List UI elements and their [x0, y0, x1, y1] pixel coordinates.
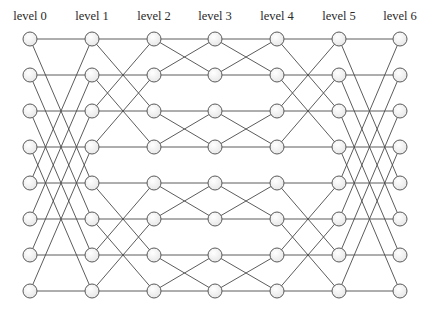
- node-l3-r3: [208, 140, 222, 154]
- node-l5-r5: [332, 212, 346, 226]
- node-l6-r1: [393, 68, 407, 82]
- node-l1-r7: [85, 284, 99, 298]
- node-l5-r7: [332, 284, 346, 298]
- node-l6-r0: [393, 32, 407, 46]
- node-l3-r1: [208, 68, 222, 82]
- node-l0-r7: [23, 284, 37, 298]
- node-l3-r4: [208, 176, 222, 190]
- benes-network-diagram: level 0 level 1 level 2 level 3 level 4 …: [0, 0, 430, 315]
- node-l3-r7: [208, 284, 222, 298]
- node-l4-r5: [270, 212, 284, 226]
- node-l5-r0: [332, 32, 346, 46]
- network-graph: [0, 0, 430, 315]
- node-l4-r1: [270, 68, 284, 82]
- node-l1-r1: [85, 68, 99, 82]
- node-l4-r4: [270, 176, 284, 190]
- node-l2-r7: [147, 284, 161, 298]
- node-l3-r0: [208, 32, 222, 46]
- node-l6-r6: [393, 248, 407, 262]
- node-l0-r2: [23, 104, 37, 118]
- node-l5-r1: [332, 68, 346, 82]
- node-l4-r2: [270, 104, 284, 118]
- nodes-layer: [23, 32, 407, 298]
- node-l4-r3: [270, 140, 284, 154]
- node-l4-r6: [270, 248, 284, 262]
- node-l2-r2: [147, 104, 161, 118]
- node-l1-r5: [85, 212, 99, 226]
- node-l4-r0: [270, 32, 284, 46]
- node-l1-r0: [85, 32, 99, 46]
- node-l3-r5: [208, 212, 222, 226]
- node-l6-r3: [393, 140, 407, 154]
- node-l6-r5: [393, 212, 407, 226]
- node-l0-r0: [23, 32, 37, 46]
- node-l1-r6: [85, 248, 99, 262]
- node-l2-r6: [147, 248, 161, 262]
- node-l2-r0: [147, 32, 161, 46]
- node-l2-r1: [147, 68, 161, 82]
- node-l2-r4: [147, 176, 161, 190]
- node-l5-r2: [332, 104, 346, 118]
- node-l3-r2: [208, 104, 222, 118]
- node-l6-r2: [393, 104, 407, 118]
- node-l2-r5: [147, 212, 161, 226]
- node-l1-r2: [85, 104, 99, 118]
- node-l2-r3: [147, 140, 161, 154]
- node-l1-r3: [85, 140, 99, 154]
- node-l5-r3: [332, 140, 346, 154]
- node-l3-r6: [208, 248, 222, 262]
- node-l6-r7: [393, 284, 407, 298]
- node-l0-r1: [23, 68, 37, 82]
- node-l0-r6: [23, 248, 37, 262]
- node-l5-r6: [332, 248, 346, 262]
- node-l5-r4: [332, 176, 346, 190]
- node-l6-r4: [393, 176, 407, 190]
- node-l0-r4: [23, 176, 37, 190]
- node-l0-r3: [23, 140, 37, 154]
- node-l4-r7: [270, 284, 284, 298]
- node-l0-r5: [23, 212, 37, 226]
- node-l1-r4: [85, 176, 99, 190]
